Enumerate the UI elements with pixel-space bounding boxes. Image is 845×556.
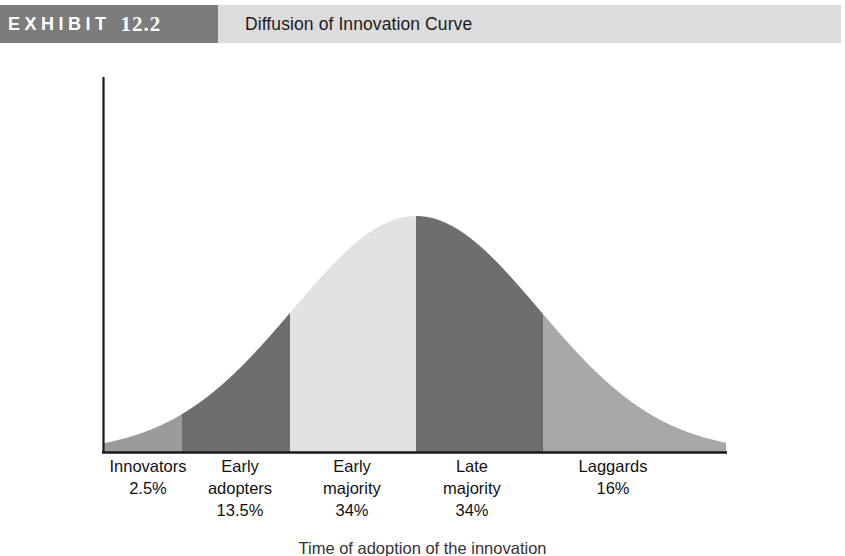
segment-early-adopters xyxy=(182,43,290,453)
category-value: 16% xyxy=(533,477,693,499)
category-value: 34% xyxy=(392,499,552,521)
segment-laggards xyxy=(543,43,726,453)
chart-x-axis-caption: Time of adoption of the innovation xyxy=(0,539,845,556)
exhibit-badge: EXHIBIT 12.2 xyxy=(0,5,218,43)
category-name: Laggards xyxy=(533,455,693,477)
exhibit-title-strip: Diffusion of Innovation Curve xyxy=(218,5,841,43)
category-label-late-majority: Late majority 34% xyxy=(392,455,552,521)
segment-late-majority xyxy=(416,43,543,453)
segment-early-majority xyxy=(290,43,416,453)
category-label-laggards: Laggards 16% xyxy=(533,455,693,499)
category-name: Late xyxy=(392,455,552,477)
exhibit-title: Diffusion of Innovation Curve xyxy=(218,14,472,35)
exhibit-header: EXHIBIT 12.2 Diffusion of Innovation Cur… xyxy=(0,5,841,43)
category-name-cont: majority xyxy=(392,477,552,499)
exhibit-badge-number: 12.2 xyxy=(121,12,162,37)
category-label-row: Innovators 2.5% Early adopters 13.5% Ear… xyxy=(0,455,845,535)
curve-segments xyxy=(103,43,726,453)
exhibit-badge-label: EXHIBIT xyxy=(0,14,111,35)
segment-innovators xyxy=(103,43,182,453)
diffusion-of-innovation-chart: Innovators 2.5% Early adopters 13.5% Ear… xyxy=(0,43,845,556)
